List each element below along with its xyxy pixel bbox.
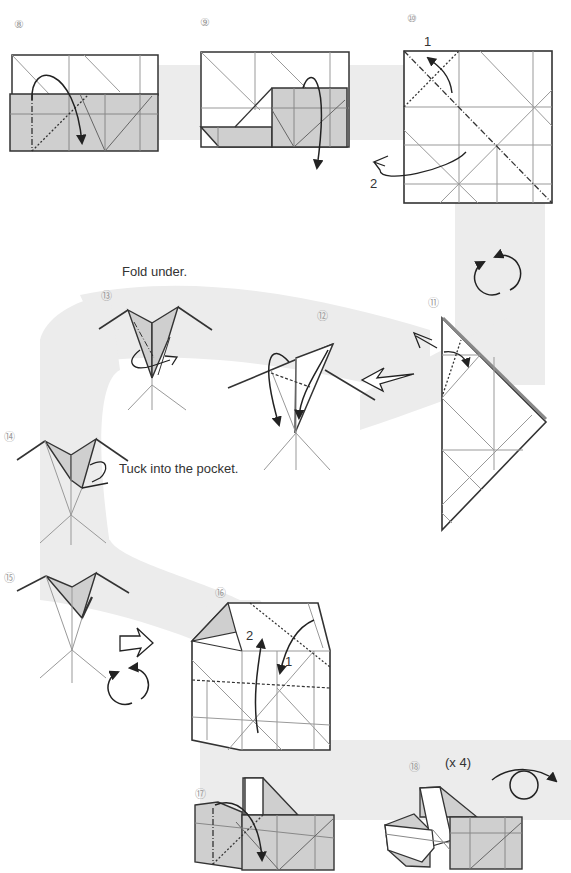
diagram-page: ⑧ ⑨ ⑩ 1 2 xyxy=(0,0,571,873)
next-arrow-icon xyxy=(120,628,153,657)
diagram-canvas: ⑧ ⑨ ⑩ 1 2 xyxy=(0,0,571,873)
step-10-label-2: 2 xyxy=(370,176,377,191)
step-number-10: ⑩ xyxy=(407,12,417,24)
step-18-caption: (x 4) xyxy=(445,755,471,770)
step-number-17: ⑰ xyxy=(195,788,206,800)
step-8-diagram xyxy=(10,55,158,151)
step-number-12: ⑫ xyxy=(317,310,328,322)
step-16-label-2: 2 xyxy=(246,628,253,643)
step-number-13: ⑬ xyxy=(101,290,112,302)
step-number-15: ⑮ xyxy=(4,572,15,584)
step-number-8: ⑧ xyxy=(14,18,24,30)
step-14-caption: Tuck into the pocket. xyxy=(119,461,238,476)
step-number-18: ⑱ xyxy=(409,761,420,773)
step-16-diagram xyxy=(192,603,330,750)
turn-over-icon xyxy=(108,668,148,705)
step-9-diagram xyxy=(201,52,349,168)
step-10-label-1: 1 xyxy=(424,34,431,49)
step-number-16: ⑯ xyxy=(215,587,226,599)
step-number-11: ⑪ xyxy=(428,297,439,309)
step-13-caption: Fold under. xyxy=(122,264,187,279)
step-number-14: ⑭ xyxy=(4,431,15,443)
step-number-9: ⑨ xyxy=(200,16,210,28)
step-16-label-1: 1 xyxy=(285,654,292,669)
